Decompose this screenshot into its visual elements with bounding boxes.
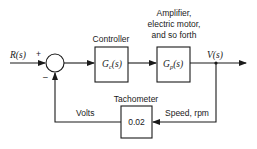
input-signal-label: R(s) <box>9 50 26 61</box>
plant-transfer-function: Gp(s) <box>163 59 183 70</box>
output-signal-label: V(s) <box>207 50 223 61</box>
plant-caption-line-3: and so forth <box>152 30 197 40</box>
tachometer-caption: Tachometer <box>114 94 159 104</box>
controller-caption: Controller <box>93 34 130 44</box>
controller-transfer-function: Gc(s) <box>102 59 122 70</box>
summing-junction <box>46 54 64 72</box>
plant-caption-line-1: Amplifier, <box>157 8 192 18</box>
plus-sign: + <box>36 49 41 59</box>
minus-sign: – <box>43 72 48 82</box>
speed-label: Speed, rpm <box>165 108 209 118</box>
plant-caption-line-2: electric motor, <box>148 19 201 29</box>
tachometer-gain: 0.02 <box>128 117 145 127</box>
volts-label: Volts <box>76 108 94 118</box>
block-diagram: R(s) + – Controller Gc(s) Amplifier, ele… <box>0 0 257 149</box>
